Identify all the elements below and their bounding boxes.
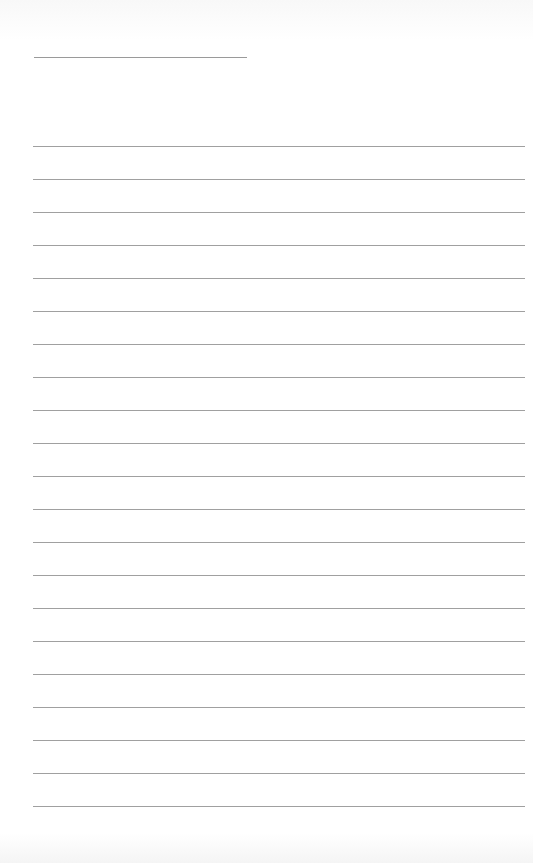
ruled-line [33,476,525,477]
ruled-line [33,212,525,213]
ruled-line [33,608,525,609]
ruled-line [33,410,525,411]
ruled-line [33,674,525,675]
ruled-line [33,311,525,312]
ruled-line [33,707,525,708]
ruled-line [33,179,525,180]
lined-paper-page [0,0,533,863]
ruled-line [33,575,525,576]
ruled-line [33,278,525,279]
ruled-line [33,542,525,543]
ruled-line [33,245,525,246]
ruled-line [33,641,525,642]
ruled-line [33,344,525,345]
ruled-line [33,377,525,378]
ruled-line [33,509,525,510]
ruled-lines-area [0,0,533,863]
ruled-line [33,146,525,147]
ruled-line [33,773,525,774]
ruled-line [33,443,525,444]
ruled-line [33,806,525,807]
ruled-line [33,740,525,741]
